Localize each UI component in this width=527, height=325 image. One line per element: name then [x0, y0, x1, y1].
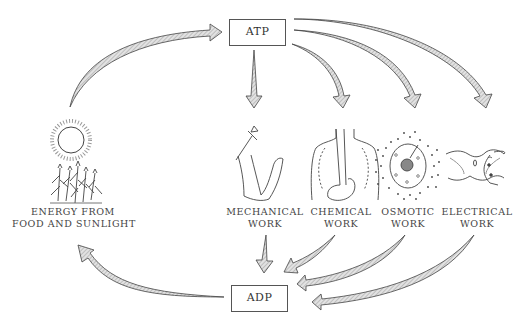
adp-label: ADP [247, 291, 273, 304]
mechanical-work-line2: WORK [224, 218, 306, 230]
adp-node: ADP [231, 285, 288, 312]
arrow-osmotic-to-adp [297, 235, 405, 291]
nerve-cell-icon [446, 150, 505, 185]
source-label-line2: FOOD AND SUNLIGHT [12, 218, 134, 230]
electrical-work-label: ELECTRICAL WORK [440, 206, 514, 230]
atp-label: ATP [246, 25, 270, 38]
diagram-canvas [0, 0, 527, 325]
torso-organs-icon [311, 129, 379, 200]
arrow-atp-to-mechanical [246, 50, 262, 108]
electrical-work-line1: ELECTRICAL [440, 206, 514, 218]
mechanical-work-line1: MECHANICAL [224, 206, 306, 218]
chemical-work-line1: CHEMICAL [308, 206, 374, 218]
mechanical-work-label: MECHANICAL WORK [224, 206, 306, 230]
chemical-work-label: CHEMICAL WORK [308, 206, 374, 230]
arrow-source-to-atp [70, 24, 222, 107]
arrow-chemical-to-adp [284, 235, 335, 273]
sun-and-plants-icon [50, 121, 102, 203]
arrow-atp-to-osmotic [294, 30, 421, 108]
chemical-work-line2: WORK [308, 218, 374, 230]
osmotic-work-label: OSMOTIC WORK [380, 206, 436, 230]
osmotic-work-line2: WORK [380, 218, 436, 230]
arrow-mechanical-to-adp [256, 235, 273, 273]
cell-with-particles-icon [375, 131, 440, 200]
osmotic-work-line1: OSMOTIC [380, 206, 436, 218]
arrow-adp-to-source [78, 245, 224, 297]
arrow-atp-to-chemical [292, 44, 350, 108]
electrical-work-line2: WORK [440, 218, 514, 230]
atp-node: ATP [229, 19, 286, 46]
arm-with-hammer-icon [236, 126, 283, 200]
source-label-line1: ENERGY FROM [12, 206, 134, 218]
source-label: ENERGY FROM FOOD AND SUNLIGHT [12, 206, 134, 230]
